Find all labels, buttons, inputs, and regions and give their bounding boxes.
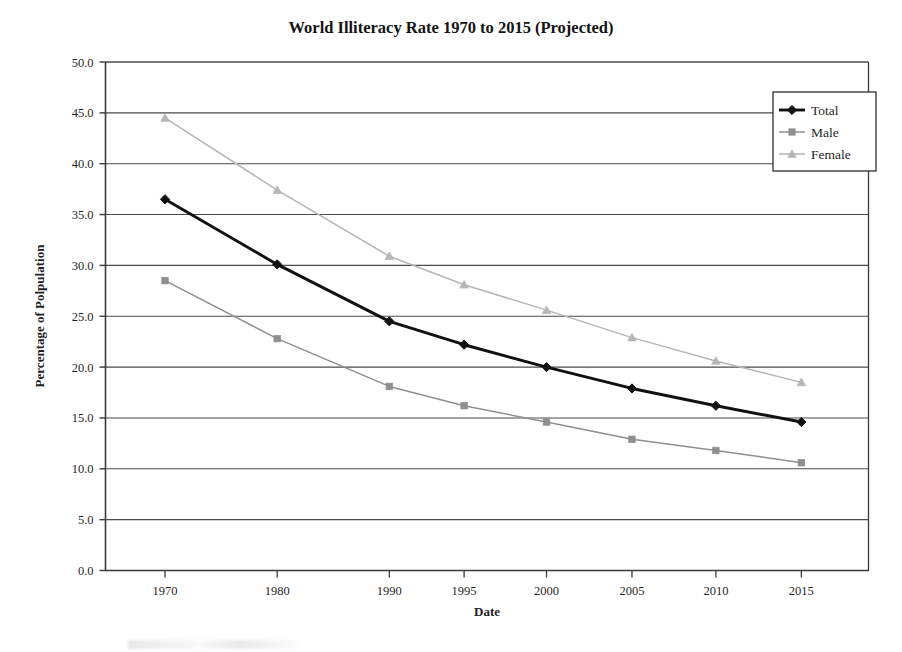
legend-label: Total [811, 103, 839, 118]
x-axis-title: Date [474, 604, 500, 619]
x-tick-label: 2005 [619, 584, 644, 598]
chart-legend[interactable]: TotalMaleFemale [773, 92, 876, 171]
y-tick-label: 10.0 [72, 462, 94, 476]
data-point-marker [162, 277, 168, 283]
y-tick-label: 35.0 [72, 208, 94, 222]
data-point-marker [713, 447, 719, 453]
x-tick-label: 1990 [377, 584, 402, 598]
x-tick-label: 1995 [452, 584, 477, 598]
data-point-marker [798, 459, 804, 465]
chart-title: World Illiteracy Rate 1970 to 2015 (Proj… [288, 18, 613, 37]
data-point-marker [543, 419, 549, 425]
legend-label: Female [811, 147, 851, 162]
data-point-marker [629, 436, 635, 442]
y-tick-label: 0.0 [78, 564, 94, 578]
y-axis-title: Percentage of Polpulation [32, 244, 47, 388]
y-tick-label: 5.0 [78, 513, 94, 527]
chart-figure: World Illiteracy Rate 1970 to 2015 (Proj… [0, 0, 902, 652]
chart-background [0, 0, 902, 652]
x-tick-label: 2010 [703, 584, 728, 598]
data-point-marker [461, 403, 467, 409]
y-tick-label: 45.0 [72, 106, 94, 120]
x-tick-label: 2015 [789, 584, 814, 598]
y-tick-label: 30.0 [72, 259, 94, 273]
x-tick-label: 1980 [265, 584, 290, 598]
y-tick-label: 20.0 [72, 361, 94, 375]
x-tick-label: 1970 [153, 584, 178, 598]
legend-label: Male [811, 125, 839, 140]
y-tick-label: 15.0 [72, 411, 94, 425]
illiteracy-line-chart: World Illiteracy Rate 1970 to 2015 (Proj… [0, 0, 902, 652]
y-tick-label: 50.0 [72, 56, 94, 70]
data-point-marker [274, 335, 280, 341]
data-point-marker [386, 383, 392, 389]
x-tick-label: 2000 [534, 584, 559, 598]
data-point-marker [789, 129, 795, 135]
y-tick-label: 25.0 [72, 310, 94, 324]
y-tick-label: 40.0 [72, 157, 94, 171]
